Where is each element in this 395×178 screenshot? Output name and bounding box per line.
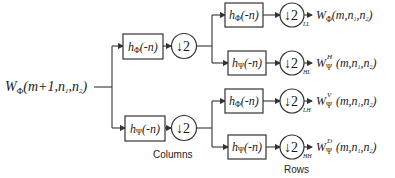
row-downsampler-hh: ↓2: [280, 135, 304, 159]
column-downsampler-bottom: ↓2: [172, 116, 197, 141]
row-lowpass-filter-1: hΦ(-n): [225, 3, 263, 27]
row-lowpass-filter-2: hΦ(-n): [225, 89, 263, 113]
rows-label: Rows: [284, 164, 309, 175]
output-hh: WΨ(m,n1,n2) D: [316, 137, 377, 156]
row-downsampler-ll: ↓2: [280, 3, 304, 27]
svg-text:↓2: ↓2: [284, 56, 298, 71]
svg-text:↓2: ↓2: [284, 8, 298, 23]
svg-text:↓2: ↓2: [284, 94, 298, 109]
row-downsampler-hl: ↓2: [280, 51, 304, 75]
svg-text:WΨ(m,n1,n2): WΨ(m,n1,n2): [316, 140, 377, 156]
column-lowpass-filter: hΦ(-n): [123, 34, 163, 59]
band-label-lh: LH: [302, 107, 311, 113]
row-highpass-filter-1: hΨ(-n): [228, 51, 266, 75]
output-lh: WΨ(m,n1,n2) V: [316, 91, 377, 110]
svg-text:hΨ(-n): hΨ(-n): [130, 122, 160, 137]
svg-text:H: H: [326, 53, 333, 61]
svg-text:hΨ(-n): hΨ(-n): [232, 56, 262, 71]
svg-text:WΨ(m,n1,n2): WΨ(m,n1,n2): [316, 94, 377, 110]
output-ll: WΦ(m,n1,n2): [316, 8, 373, 24]
svg-text:WΨ(m,n1,n2): WΨ(m,n1,n2): [316, 56, 377, 72]
columns-label: Columns: [153, 149, 192, 160]
svg-text:↓2: ↓2: [176, 121, 190, 136]
band-label-hl: HL: [302, 69, 311, 75]
svg-text:hΦ(-n): hΦ(-n): [128, 40, 158, 55]
svg-text:D: D: [326, 137, 332, 145]
column-downsampler-top: ↓2: [172, 34, 197, 59]
filter-bank-diagram: WΦ(m+1,n1,n2) hΦ(-n) hΨ(-n) ↓2 ↓2 Column…: [0, 0, 395, 178]
svg-text:hΨ(-n): hΨ(-n): [232, 140, 262, 155]
svg-text:hΦ(-n): hΦ(-n): [229, 8, 259, 23]
svg-text:V: V: [327, 91, 332, 99]
output-hl: WΨ(m,n1,n2) H: [316, 53, 377, 72]
band-label-hh: HH: [302, 153, 312, 159]
svg-text:hΦ(-n): hΦ(-n): [229, 94, 259, 109]
input-signal-label: WΦ(m+1,n1,n2): [5, 79, 88, 96]
band-label-ll: LL: [302, 21, 310, 27]
row-downsampler-lh: ↓2: [280, 89, 304, 113]
row-highpass-filter-2: hΨ(-n): [228, 135, 266, 159]
column-highpass-filter: hΨ(-n): [125, 116, 165, 141]
svg-text:↓2: ↓2: [176, 39, 190, 54]
svg-text:↓2: ↓2: [284, 140, 298, 155]
